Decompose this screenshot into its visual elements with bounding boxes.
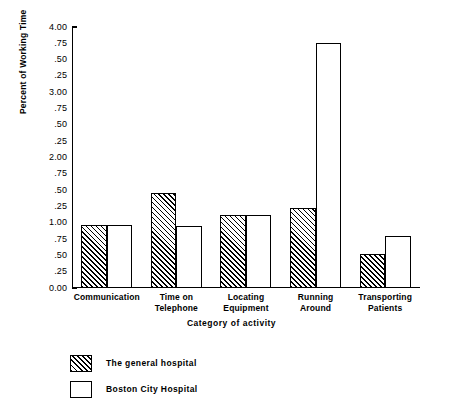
x-axis-title-word: Category (187, 318, 228, 328)
y-axis-tick-label: .75 (26, 103, 72, 114)
legend-item: Boston City Hospital (70, 378, 198, 400)
x-axis-title: Category of activity (0, 318, 463, 328)
y-axis-tick-text: .50 (54, 185, 72, 196)
chart-legend: The general hospitalBoston City Hospital (70, 352, 198, 404)
y-axis-tick-text: .25 (54, 266, 72, 277)
bar-group (211, 27, 281, 288)
legend-label: The general hospital (106, 358, 197, 368)
bar-group (281, 27, 351, 288)
y-axis-tick-text: .75 (54, 234, 72, 245)
y-axis-tick-text: .50 (54, 54, 72, 65)
y-axis-tick-text: .50 (54, 119, 72, 130)
y-axis-tick-text: .75 (54, 168, 72, 179)
bar-hatched (290, 208, 316, 288)
y-axis-tick-label: .75 (26, 234, 72, 245)
y-axis-tick-text: 3.00 (49, 87, 72, 98)
bar-white (176, 226, 202, 288)
y-axis-tick-label: .50 (26, 54, 72, 65)
y-axis-tick-text: .25 (54, 70, 72, 81)
category-label-line: Patients (340, 303, 430, 314)
bar-white (316, 43, 342, 288)
y-axis-tick-label: .25 (26, 70, 72, 81)
y-axis-tick-text: .75 (54, 38, 72, 49)
legend-item: The general hospital (70, 352, 198, 374)
x-axis-title-word: activity (243, 318, 276, 328)
y-axis-tick-text: 1.00 (49, 217, 72, 228)
y-axis-tick-label: .25 (26, 266, 72, 277)
y-axis-tick-text: .50 (54, 250, 72, 261)
y-axis-tick-label: .50 (26, 185, 72, 196)
bar-hatched (151, 193, 177, 288)
bar-white (385, 236, 411, 288)
bar-hatched (220, 215, 246, 288)
legend-swatch-hatched (70, 355, 92, 372)
bar-chart-figure: Percent of Working Time 0.00.25.50.751.0… (0, 0, 463, 404)
bar-white (107, 225, 133, 288)
y-axis-tick-label: .50 (26, 119, 72, 130)
x-axis-category-label: TransportingPatients (340, 292, 430, 313)
bar-group (142, 27, 212, 288)
y-axis-tick-label: .75 (26, 38, 72, 49)
y-axis-tick-text: .75 (54, 103, 72, 114)
bar-group (72, 27, 142, 288)
y-axis-tick-label: .75 (26, 168, 72, 179)
y-axis-tick-label: 3.00 (26, 87, 72, 98)
plot-area: 0.00.25.50.751.00.25.50.752.00.25.50.753… (72, 27, 420, 288)
y-axis-tick-text: 4.00 (49, 22, 72, 33)
legend-swatch-white (70, 381, 92, 398)
x-axis-title-word: of (231, 318, 240, 328)
y-axis-tick-label: 1.00 (26, 217, 72, 228)
bar-hatched (81, 225, 107, 288)
legend-label: Boston City Hospital (106, 384, 198, 394)
bar-white (246, 215, 272, 288)
category-label-line: Transporting (340, 292, 430, 303)
y-axis-tick-text: .25 (54, 136, 72, 147)
y-axis-tick-label: .25 (26, 136, 72, 147)
bar-hatched (360, 254, 386, 288)
y-axis-tick-text: .25 (54, 201, 72, 212)
y-axis-tick-label: .25 (26, 201, 72, 212)
bar-series-container (72, 27, 420, 288)
y-axis-tick-label: 4.00 (26, 22, 72, 33)
y-axis-tick-text: 2.00 (49, 152, 72, 163)
y-axis-tick-label: 2.00 (26, 152, 72, 163)
y-axis-tick-label: .50 (26, 250, 72, 261)
bar-group (350, 27, 420, 288)
